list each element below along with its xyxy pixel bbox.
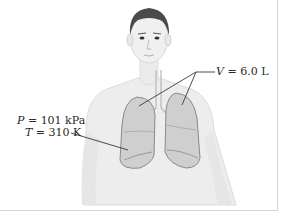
volume-value: 6.0 L <box>240 65 268 78</box>
left-eye <box>140 37 145 40</box>
temperature-equals: = <box>32 126 48 139</box>
torso-lungs-illustration <box>0 0 284 217</box>
volume-label: V = 6.0 L <box>216 66 268 78</box>
volume-equals: = <box>224 65 240 78</box>
temperature-value: 310 K <box>49 126 82 139</box>
volume-symbol: V <box>216 65 224 78</box>
temperature-label: T = 310 K <box>25 127 81 139</box>
right-eye <box>155 37 160 40</box>
right-lung <box>120 97 155 168</box>
